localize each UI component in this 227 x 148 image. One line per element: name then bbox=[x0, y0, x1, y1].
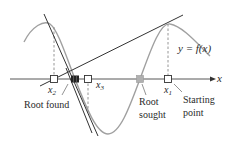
root-found-leader bbox=[62, 84, 68, 95]
root-sought-marker bbox=[137, 76, 144, 83]
starting-point-label-line2: point bbox=[183, 107, 204, 118]
root-sought-label-line1: Root bbox=[139, 96, 159, 107]
starting-point-leader bbox=[174, 84, 182, 92]
root-found-marker bbox=[71, 76, 79, 83]
x3-label: x3 bbox=[95, 79, 104, 92]
tangent-at-x1 bbox=[40, 15, 183, 86]
x1-marker bbox=[165, 76, 172, 83]
x-axis-arrow-icon bbox=[210, 77, 216, 82]
x-axis-label: x bbox=[216, 72, 222, 84]
root-sought-label-line2: sought bbox=[139, 109, 166, 120]
curve-label: y = f(x) bbox=[177, 42, 211, 55]
x3-marker bbox=[85, 76, 92, 83]
x2-label: x2 bbox=[47, 84, 56, 97]
starting-point-label-line1: Starting bbox=[183, 94, 215, 105]
root-sought-leader bbox=[142, 84, 146, 95]
root-found-label: Root found bbox=[24, 99, 69, 110]
x2-marker bbox=[51, 76, 58, 83]
newton-method-diagram: y = f(x) x x2 x3 x1 Root found Root soug… bbox=[0, 0, 227, 148]
tangent-at-x2 bbox=[44, 14, 98, 136]
x1-label: x1 bbox=[163, 84, 172, 97]
